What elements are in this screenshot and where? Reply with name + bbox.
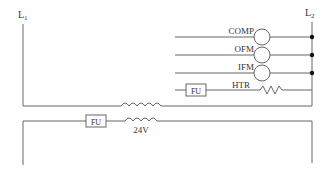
ladder-diagram: L1 L2 COMP OFM IFM HTR FU FU 24V <box>0 0 332 170</box>
ofm-coil-icon <box>254 47 270 63</box>
junction-dot <box>310 53 314 57</box>
ifm-coil-icon <box>254 65 270 81</box>
ifm-label: IFM <box>238 62 254 72</box>
comp-coil-icon <box>254 29 270 45</box>
junction-dot <box>310 71 314 75</box>
transformer-secondary <box>125 118 157 121</box>
comp-label: COMP <box>228 26 254 36</box>
htr-fuse-label: FU <box>191 87 201 96</box>
htr-label: HTR <box>232 80 250 90</box>
voltage-label: 24V <box>133 125 149 135</box>
junction-dot <box>310 35 314 39</box>
transformer-primary <box>121 103 161 106</box>
ofm-label: OFM <box>234 44 254 54</box>
heater-resistor-icon <box>260 86 282 94</box>
l1-label: L1 <box>18 9 28 22</box>
secondary-fuse-label: FU <box>91 118 101 127</box>
l2-label: L2 <box>305 7 315 20</box>
